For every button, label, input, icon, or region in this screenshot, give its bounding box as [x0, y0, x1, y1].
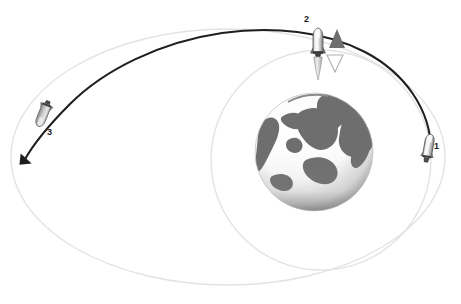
stage-2-label: 2 — [304, 15, 309, 24]
retrograde-thrust-triangle-icon — [327, 55, 343, 72]
stage-1-label: 1 — [434, 142, 439, 151]
earth-globe — [250, 91, 380, 214]
orbit-canvas — [0, 0, 461, 304]
stage-3-label: 3 — [47, 128, 52, 137]
earth-landmasses — [250, 91, 380, 214]
orbital-transfer-diagram: 1 2 3 — [0, 0, 461, 304]
